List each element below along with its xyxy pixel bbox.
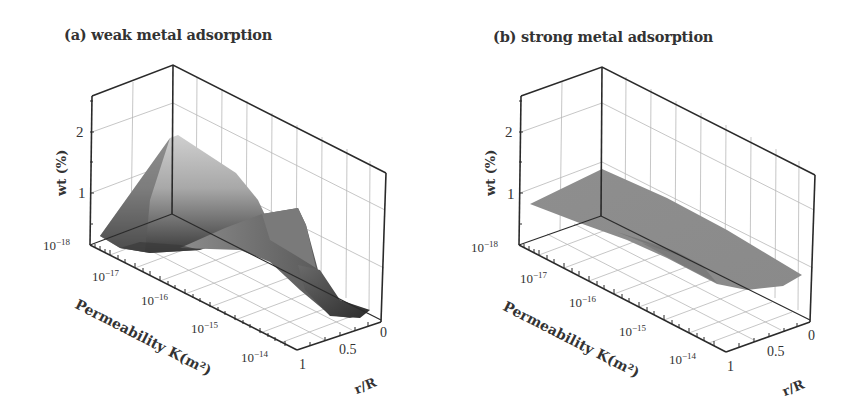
k-tick-label: 10−15: [619, 323, 646, 340]
r-tick-label: 1: [727, 359, 734, 375]
z-tick-label: 2: [76, 124, 84, 141]
r-tick-label: 0: [380, 325, 387, 341]
z-tick-label: 1: [78, 185, 86, 202]
panel-a: (a) weak metal adsorption: [0, 0, 426, 405]
z-tick-label: 2: [505, 124, 513, 141]
k-tick-label: 10−18: [43, 237, 70, 254]
r-tick-label: 1: [299, 357, 306, 373]
surface-plot: [427, 0, 852, 405]
r-tick-label: 0: [808, 328, 815, 344]
k-tick-label: 10−17: [520, 270, 547, 287]
surface-plot: [0, 0, 426, 405]
z-axis-label: wt (%): [54, 150, 69, 196]
k-tick-label: 10−17: [92, 268, 119, 285]
k-tick-label: 10−16: [141, 292, 168, 309]
k-tick-label: 10−18: [471, 239, 498, 256]
panel-b: (b) strong metal adsorption: [427, 0, 852, 405]
k-tick-label: 10−16: [569, 294, 596, 311]
k-tick-label: 10−14: [241, 349, 268, 366]
z-axis-label: wt (%): [483, 150, 498, 196]
z-tick-label: 1: [507, 186, 515, 203]
k-tick-label: 10−15: [191, 320, 218, 337]
r-tick-label: 0.5: [339, 342, 357, 358]
r-tick-label: 0.5: [767, 344, 785, 360]
k-tick-label: 10−14: [669, 351, 696, 368]
